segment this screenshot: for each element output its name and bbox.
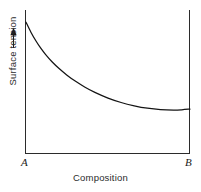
x-axis-endpoint-a-label: A — [21, 157, 28, 168]
plot-area — [0, 0, 201, 192]
surface-tension-curve — [26, 22, 190, 110]
y-axis-label: Surface tension — [7, 17, 18, 86]
surface-tension-composition-figure: Surface tension Composition A B — [0, 0, 201, 192]
y-axis-label-group: Surface tension — [2, 5, 16, 97]
x-axis-label: Composition — [0, 172, 201, 183]
x-axis-endpoint-b-label: B — [185, 157, 192, 168]
